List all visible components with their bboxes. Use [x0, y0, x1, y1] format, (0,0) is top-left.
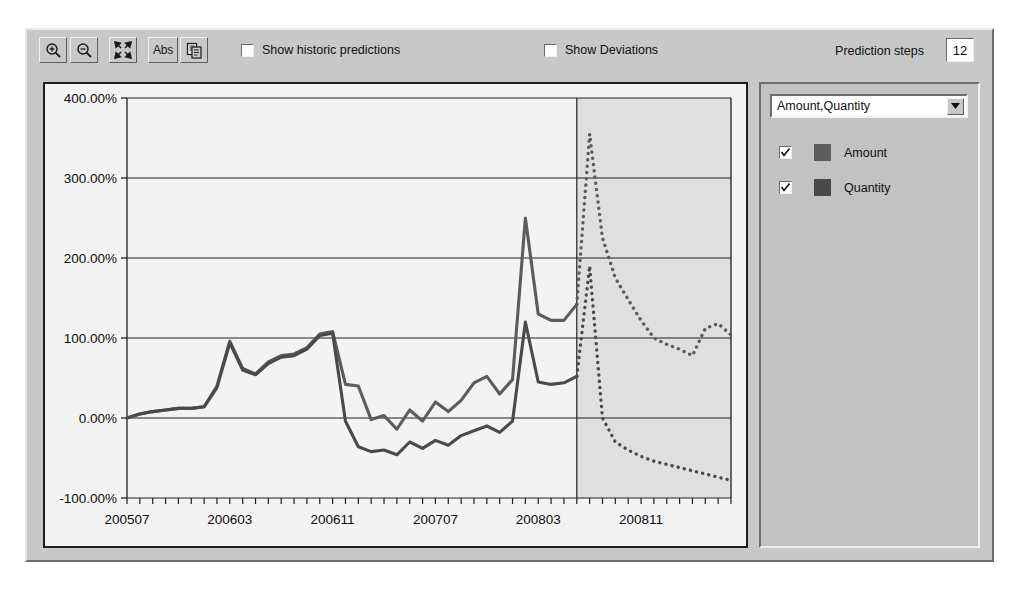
svg-text:-100.00%: -100.00% [59, 491, 117, 506]
toolbar: Abs Show historic predictions [27, 30, 992, 72]
legend-color-swatch-quantity [814, 179, 831, 196]
svg-text:300.00%: 300.00% [64, 171, 117, 186]
absolute-values-button[interactable]: Abs [148, 37, 178, 63]
legend-item-quantity[interactable]: Quantity [779, 179, 891, 196]
svg-text:400.00%: 400.00% [64, 91, 117, 106]
svg-text:200707: 200707 [413, 512, 458, 527]
svg-text:200.00%: 200.00% [64, 251, 117, 266]
legend-label-quantity: Quantity [844, 181, 891, 195]
fit-to-window-button[interactable] [109, 37, 137, 63]
svg-text:0.00%: 0.00% [79, 411, 117, 426]
svg-text:200603: 200603 [207, 512, 252, 527]
zoom-out-button[interactable] [70, 37, 98, 63]
chevron-down-icon[interactable] [947, 98, 964, 115]
legend-checkbox[interactable] [779, 181, 792, 194]
show-historic-predictions-label: Show historic predictions [262, 43, 400, 57]
series-panel: Amount,Quantity Amount Quantity [759, 82, 980, 548]
svg-text:100.00%: 100.00% [64, 331, 117, 346]
forecast-chart-window: Abs Show historic predictions [25, 28, 994, 562]
show-deviations-label: Show Deviations [565, 43, 658, 57]
checkbox-box [241, 44, 254, 57]
svg-text:200611: 200611 [311, 512, 355, 527]
zoom-out-icon [76, 42, 93, 59]
svg-text:200507: 200507 [104, 512, 149, 527]
abs-text-icon: Abs [153, 43, 173, 57]
series-select-value: Amount,Quantity [772, 99, 947, 113]
legend-label-amount: Amount [844, 146, 887, 160]
legend-item-amount[interactable]: Amount [779, 144, 887, 161]
prediction-steps-input[interactable]: 12 [946, 38, 974, 62]
zoom-in-button[interactable] [39, 37, 67, 63]
chart-svg: 400.00%300.00%200.00%100.00%0.00%-100.00… [45, 84, 746, 546]
checkbox-box [544, 44, 557, 57]
show-deviations-checkbox[interactable]: Show Deviations [544, 43, 658, 57]
legend-checkbox[interactable] [779, 146, 792, 159]
expand-arrows-icon [114, 41, 132, 59]
zoom-in-icon [45, 42, 62, 59]
prediction-steps-label: Prediction steps [835, 44, 924, 58]
legend-color-swatch-amount [814, 144, 831, 161]
svg-text:200811: 200811 [619, 512, 663, 527]
series-select-dropdown[interactable]: Amount,Quantity [770, 94, 968, 118]
svg-text:200803: 200803 [516, 512, 561, 527]
copy-to-clipboard-button[interactable] [180, 37, 208, 63]
copy-icon [186, 42, 203, 59]
show-historic-predictions-checkbox[interactable]: Show historic predictions [241, 43, 400, 57]
chart-area[interactable]: 400.00%300.00%200.00%100.00%0.00%-100.00… [43, 82, 748, 548]
